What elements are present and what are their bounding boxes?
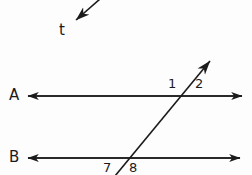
diagram-svg [0, 0, 252, 175]
transversal-label: t [59, 23, 65, 38]
angle-label-7: 7 [103, 161, 111, 174]
line-b-label: B [9, 150, 19, 165]
transversal-pointer-arrow [76, 0, 100, 20]
line-a-label: A [9, 88, 19, 103]
geometry-diagram-canvas: A B t 1 2 7 8 [0, 0, 252, 175]
angle-label-1: 1 [168, 77, 176, 90]
angle-label-2: 2 [195, 77, 203, 90]
angle-label-8: 8 [129, 161, 137, 174]
